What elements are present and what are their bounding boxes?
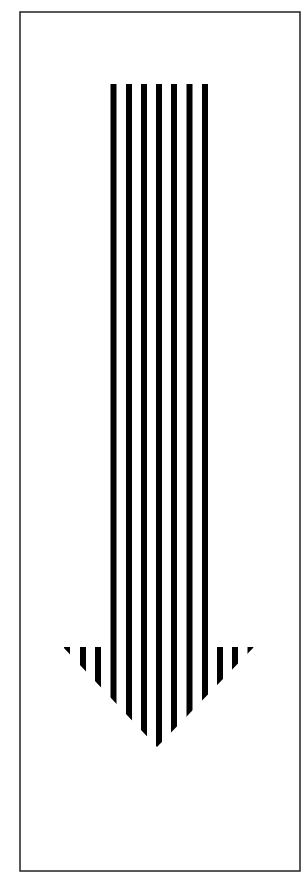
stripe bbox=[202, 84, 208, 749]
stripe bbox=[232, 84, 238, 749]
stripe bbox=[141, 84, 147, 749]
arrow-down-striped-icon bbox=[0, 0, 306, 881]
stripe bbox=[187, 84, 193, 749]
stripe bbox=[156, 84, 162, 749]
stripe bbox=[111, 84, 117, 749]
stripe bbox=[217, 84, 223, 749]
figure-canvas bbox=[0, 0, 306, 881]
stripe bbox=[248, 84, 254, 749]
stripe bbox=[64, 84, 70, 749]
stripe bbox=[80, 84, 86, 749]
stripe bbox=[95, 84, 101, 749]
stripe bbox=[171, 84, 177, 749]
stripe bbox=[126, 84, 132, 749]
arrow-stripes bbox=[64, 84, 254, 749]
